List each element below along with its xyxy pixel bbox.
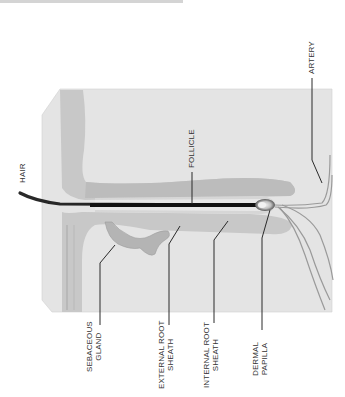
- dermal-papilla: [255, 199, 275, 211]
- label-internal-root-sheath: INTERNAL ROOT SHEATH: [202, 322, 220, 388]
- label-follicle: FOLLICLE: [187, 129, 196, 168]
- label-dermal-papilla: DERMAL PAPILLA: [251, 342, 269, 376]
- label-external-root-sheath: EXTERNAL ROOT SHEATH: [157, 320, 175, 389]
- label-artery: ARTERY: [307, 41, 316, 74]
- label-hair: HAIR: [18, 163, 27, 183]
- label-sebaceous-gland: SEBACEOUS GLAND: [85, 321, 103, 372]
